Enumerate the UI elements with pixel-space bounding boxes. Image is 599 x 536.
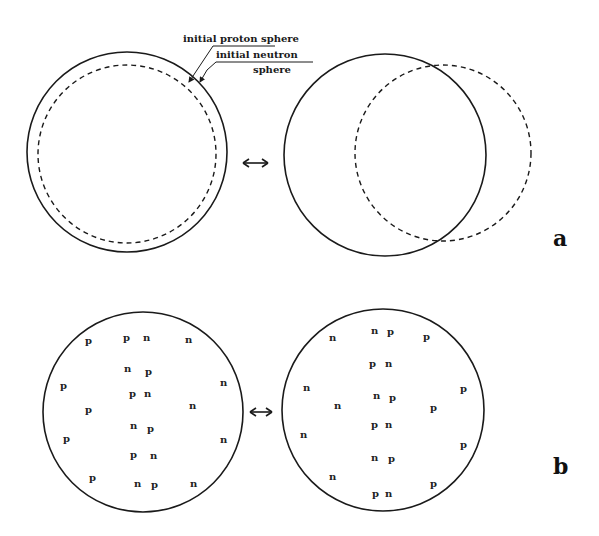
right-neutron-sphere <box>355 65 531 241</box>
right-nucleons: nnpppnnpnpnppnnpnpnppn <box>300 325 467 499</box>
neutron-label: n <box>185 334 193 345</box>
double-arrow-icon <box>250 408 272 416</box>
proton-label: p <box>460 439 467 450</box>
neutron-label: n <box>373 390 381 401</box>
panel-b-label: b <box>553 453 568 479</box>
proton-label: p <box>145 366 152 377</box>
neutron-label: n <box>220 377 228 388</box>
neutron-label: n <box>124 363 132 374</box>
proton-label: p <box>371 419 378 430</box>
proton-label: p <box>387 326 394 337</box>
double-arrow-icon <box>243 159 268 167</box>
neutron-leader-line <box>200 62 216 82</box>
proton-label: p <box>147 423 154 434</box>
neutron-label: n <box>300 429 308 440</box>
left-proton-sphere <box>27 52 227 252</box>
proton-label: p <box>389 392 396 403</box>
neutron-label: n <box>371 452 379 463</box>
neutron-label: n <box>143 332 151 343</box>
panel-a-label: a <box>553 225 567 251</box>
proton-label: p <box>388 453 395 464</box>
neutron-label: n <box>385 488 393 499</box>
neutron-label: n <box>303 382 311 393</box>
proton-label: p <box>130 449 137 460</box>
left-neutron-sphere <box>38 65 216 243</box>
proton-label: p <box>430 478 437 489</box>
neutron-label: n <box>189 400 197 411</box>
left-nucleons: ppnnnppnpnpnnppnpnpnpn <box>60 332 228 490</box>
proton-label: p <box>129 388 136 399</box>
proton-sphere-label: initial proton sphere <box>183 33 299 44</box>
neutron-label: n <box>134 478 142 489</box>
proton-label: p <box>89 472 96 483</box>
neutron-label: n <box>150 450 158 461</box>
neutron-sphere-label-line2: sphere <box>253 64 291 75</box>
neutron-label: n <box>220 434 228 445</box>
neutron-label: n <box>130 420 138 431</box>
neutron-label: n <box>371 325 379 336</box>
proton-leader-line <box>189 46 213 82</box>
neutron-sphere-label-line1: initial neutron <box>216 49 299 60</box>
proton-label: p <box>151 479 158 490</box>
panel-b: ppnnnppnpnpnnppnpnpnpn nnpppnnpnpnppnnpn… <box>43 309 568 512</box>
proton-label: p <box>460 383 467 394</box>
proton-label: p <box>423 331 430 342</box>
proton-label: p <box>430 402 437 413</box>
neutron-label: n <box>329 332 337 343</box>
panel-a: initial proton sphere initial neutron sp… <box>27 33 567 256</box>
proton-label: p <box>369 358 376 369</box>
neutron-label: n <box>334 400 342 411</box>
right-nucleus <box>282 309 484 511</box>
neutron-label: n <box>329 471 337 482</box>
right-proton-sphere <box>284 54 486 256</box>
neutron-label: n <box>385 358 393 369</box>
neutron-label: n <box>385 419 393 430</box>
proton-label: p <box>63 433 70 444</box>
proton-label: p <box>123 332 130 343</box>
proton-label: p <box>60 380 67 391</box>
proton-label: p <box>85 335 92 346</box>
neutron-label: n <box>190 478 198 489</box>
nuclear-vibration-diagram: initial proton sphere initial neutron sp… <box>0 0 599 536</box>
proton-label: p <box>85 404 92 415</box>
neutron-label: n <box>144 388 152 399</box>
proton-label: p <box>372 488 379 499</box>
